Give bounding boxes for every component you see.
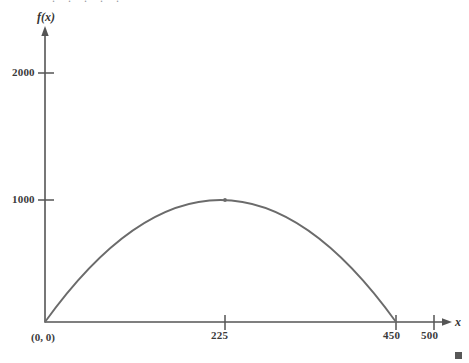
y-tick-label-2000: 2000 [12,66,35,78]
vertex-marker-dot [223,198,227,202]
x-tick-label-450: 450 [383,329,400,341]
parabola-graph-figure: . . . . . 2000 1000 225 450 500 [0,0,469,363]
x-tick-label-500: 500 [421,329,438,341]
parabola-curve [45,200,396,322]
x-axis-label: x [455,315,461,330]
plot-area [0,0,469,363]
origin-label: (0, 0) [31,331,55,343]
y-axis-label: f(x) [37,10,55,25]
x-axis [45,318,452,325]
corner-square-mark [455,352,462,359]
y-axis-ticks [38,73,54,200]
y-tick-label-1000: 1000 [12,193,35,205]
y-axis [41,26,48,322]
x-tick-label-225: 225 [211,329,228,341]
